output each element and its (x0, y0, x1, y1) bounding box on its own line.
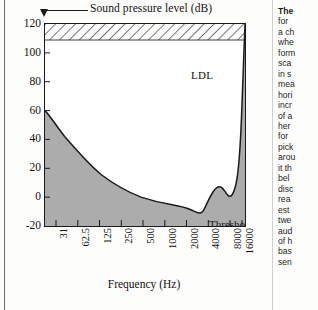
x-tick-125: 125 (103, 228, 113, 244)
figure-page: Sound pressure level (dB) 120 100 80 60 … (0, 0, 318, 310)
body-text-line: in s (278, 69, 318, 79)
body-text-line: disc (278, 184, 318, 194)
x-tick-31: 31 (59, 228, 69, 239)
body-text-line: form (278, 48, 318, 58)
body-text-line: The (278, 6, 318, 16)
x-tick-2000: 2000 (190, 228, 200, 249)
body-text-line: incr (278, 100, 318, 110)
body-text-line: her (278, 121, 318, 131)
body-text-line: pick (278, 142, 318, 152)
y-tick-120: 120 (1, 18, 41, 28)
x-tick-1000: 1000 (168, 228, 178, 249)
y-axis-title-callout: Sound pressure level (dB) (28, 2, 258, 18)
body-text-line: est (278, 205, 318, 215)
y-tick-80: 80 (1, 76, 41, 86)
x-tick-8000: 8000 (233, 228, 243, 249)
y-tick-40: 40 (1, 133, 41, 143)
body-text-line: aud (278, 226, 318, 236)
y-tick-100: 100 (1, 47, 41, 57)
inaudible-region (45, 24, 245, 226)
body-text-line: a ch (278, 27, 318, 37)
body-text-line: hori (278, 90, 318, 100)
x-axis-title: Frequency (Hz) (44, 278, 244, 290)
x-tick-4000: 4000 (211, 228, 221, 249)
y-tick-minus-20: -20 (1, 220, 41, 230)
body-text-line: bel (278, 173, 318, 183)
body-text-line: twe (278, 215, 318, 225)
body-text-line: sen (278, 257, 318, 267)
y-axis-title: Sound pressure level (dB) (90, 2, 212, 14)
x-tick-16000: 16000 (245, 228, 255, 254)
body-text-line: for (278, 131, 318, 141)
body-text-line: whe (278, 37, 318, 47)
leader-line (44, 10, 88, 11)
body-text-column: The for a ch whe form sca in s mea hori … (278, 6, 318, 306)
y-axis-tick-labels: 120 100 80 60 40 20 0 -20 (0, 23, 41, 225)
ldl-hatched-band (45, 24, 245, 40)
y-tick-20: 20 (1, 162, 41, 172)
body-text-line: arou (278, 152, 318, 162)
body-text-line: of h (278, 236, 318, 246)
auditory-area-figure: Sound pressure level (dB) 120 100 80 60 … (0, 0, 268, 310)
x-tick-250: 250 (124, 228, 134, 244)
x-tick-500: 500 (146, 228, 156, 244)
body-text-line: mea (278, 79, 318, 89)
x-tick-62-5: 62.5 (81, 228, 91, 246)
y-tick-60: 60 (1, 105, 41, 115)
body-text-line: sca (278, 58, 318, 68)
body-text-line: rea (278, 194, 318, 204)
y-tick-0: 0 (1, 191, 41, 201)
body-text-line: for (278, 16, 318, 26)
body-text-line: bas (278, 246, 318, 256)
body-text-line: of a (278, 111, 318, 121)
plot-area: LDL Threshold INAUDIBLE (44, 23, 246, 227)
column-divider (272, 0, 273, 310)
x-axis-tick-labels: 31 62.5 125 250 500 1000 2000 4000 8000 … (44, 228, 244, 274)
body-text-line: it th (278, 163, 318, 173)
plot-svg (45, 24, 245, 226)
